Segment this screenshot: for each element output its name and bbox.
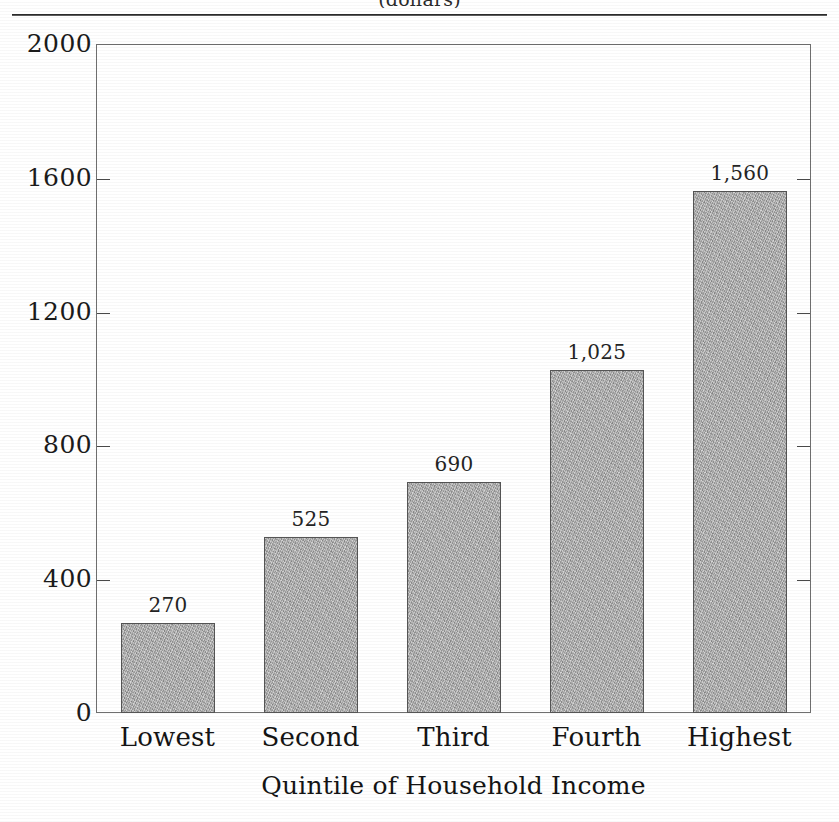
bar-chart: 0400800120016002000 2705256901,0251,560 … (0, 0, 839, 822)
bar (693, 191, 787, 713)
bar (550, 370, 644, 713)
y-axis-tick-mark-left (97, 313, 110, 314)
bar (407, 482, 501, 713)
x-axis-category-label: Second (239, 722, 382, 752)
x-axis-category-label: Highest (668, 722, 811, 752)
x-axis-category-label: Third (382, 722, 525, 752)
y-axis-tick-label: 1200 (6, 299, 92, 324)
y-axis-tick-mark-right (797, 313, 810, 314)
y-axis-tick-mark-right (797, 446, 810, 447)
bar-value-label: 1,560 (653, 163, 827, 183)
y-axis-tick-label: 400 (6, 566, 92, 591)
y-axis-tick-label: 1600 (6, 165, 92, 190)
y-axis-tick-mark-left (97, 580, 110, 581)
y-axis-tick-label: 0 (6, 700, 92, 725)
bar-value-label: 1,025 (510, 342, 684, 362)
x-axis-category-label: Lowest (96, 722, 239, 752)
y-axis-tick-labels: 0400800120016002000 (0, 0, 92, 822)
y-axis-tick-label: 2000 (6, 31, 92, 56)
bar (264, 537, 358, 713)
bar-value-label: 270 (81, 595, 255, 615)
y-axis-tick-mark-left (97, 179, 110, 180)
y-axis-tick-mark-right (797, 580, 810, 581)
bar-value-label: 690 (367, 454, 541, 474)
y-axis-tick-label: 800 (6, 432, 92, 457)
y-axis-tick-mark-left (97, 446, 110, 447)
bar (121, 623, 215, 713)
bar-value-label: 525 (224, 509, 398, 529)
x-axis-title: Quintile of Household Income (96, 771, 811, 801)
x-axis-category-label: Fourth (525, 722, 668, 752)
